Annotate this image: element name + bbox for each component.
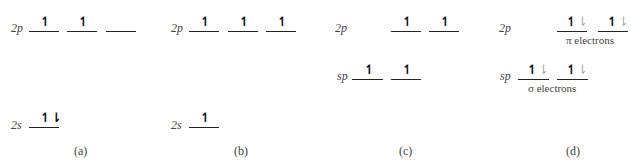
electron-up-arrow: ↿ (200, 111, 211, 124)
electron-up-arrow: ↿ (402, 15, 413, 28)
electron-up-arrow: ↿ (277, 15, 288, 28)
electron-down-arrow-added: ⇂ (577, 14, 588, 29)
electron-pair-arrows: ↿⇂ (607, 15, 629, 28)
electron-up-arrow: ↿ (40, 15, 51, 28)
panel-caption: (a) (74, 144, 87, 159)
orbital-line (598, 31, 628, 32)
pi-electrons-label: π electrons (566, 34, 614, 46)
orbital-line (557, 31, 587, 32)
level-label-sp: sp (500, 69, 511, 84)
level-label-sp: sp (337, 69, 348, 84)
electron-pair-arrows: ↿⇂ (566, 15, 588, 28)
electron-up-arrow: ↿ (364, 63, 375, 76)
electron-up-arrow: ↿ (566, 62, 577, 77)
panel-caption: (c) (399, 144, 412, 159)
level-label-2p: 2p (11, 21, 23, 36)
panel-caption: (b) (234, 144, 248, 159)
orbital-line (352, 79, 383, 80)
orbital-line (557, 79, 588, 80)
level-label-2s: 2s (11, 118, 22, 133)
orbital-line (228, 31, 258, 32)
electron-pair-arrows: ↿⇂ (40, 111, 62, 124)
orbital-line (266, 31, 296, 32)
sigma-electrons-label: σ electrons (528, 82, 576, 94)
electron-pair-arrows: ↿⇂ (566, 63, 588, 76)
electron-up-arrow: ↿ (239, 15, 250, 28)
electron-down-arrow-added: ⇂ (577, 62, 588, 77)
orbital-line (518, 79, 549, 80)
electron-up-arrow: ↿ (527, 62, 538, 77)
electron-up-arrow: ↿ (440, 15, 451, 28)
orbital-line-empty (106, 31, 136, 32)
electron-up-arrow: ↿ (78, 15, 89, 28)
electron-up-arrow: ↿ (607, 14, 618, 29)
level-label-2p: 2p (499, 21, 511, 36)
orbital-line (429, 31, 459, 32)
electron-pair-arrows: ↿⇂ (527, 63, 549, 76)
orbital-line (189, 127, 219, 128)
level-label-2s: 2s (171, 118, 182, 133)
level-label-2p: 2p (171, 21, 183, 36)
orbital-line (391, 31, 421, 32)
orbital-line (67, 31, 97, 32)
orbital-line (29, 31, 59, 32)
electron-down-arrow-added: ⇂ (618, 14, 629, 29)
panel-caption: (d) (566, 144, 580, 159)
electron-down-arrow-added: ⇂ (538, 62, 549, 77)
electron-up-arrow: ↿ (200, 15, 211, 28)
orbital-line (391, 79, 421, 80)
electron-up-arrow: ↿ (566, 14, 577, 29)
orbital-line (189, 31, 219, 32)
level-label-2p: 2p (335, 21, 347, 36)
orbital-line (29, 127, 59, 128)
electron-up-arrow: ↿ (402, 63, 413, 76)
